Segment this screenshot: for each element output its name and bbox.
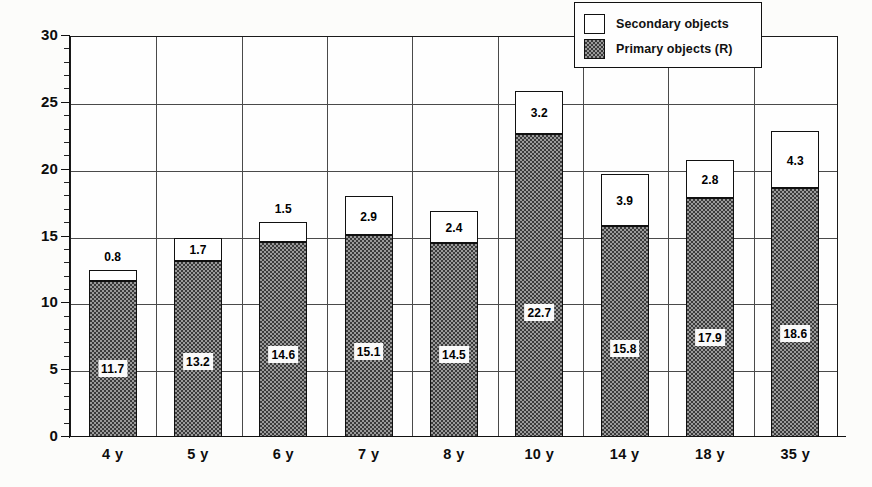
y-axis-minor-tick [64, 329, 69, 330]
y-axis-major-tick [61, 302, 70, 303]
bar-value-label-secondary: 3.9 [613, 191, 636, 208]
bar-group[interactable]: 14.61.5 [259, 222, 307, 437]
y-axis-minor-tick [64, 262, 69, 263]
bar-group[interactable]: 17.92.8 [686, 160, 734, 437]
y-axis-minor-tick [64, 222, 69, 223]
bar-value-label-primary: 22.7 [524, 304, 554, 321]
bar-segment-primary[interactable]: 15.8 [601, 226, 649, 437]
x-axis-tick-label: 5 y [155, 446, 240, 462]
y-axis-major-tick [61, 236, 70, 237]
bar-value-label-secondary: 2.9 [357, 207, 380, 224]
bar-value-label-primary: 18.6 [780, 325, 810, 342]
bar-segment-primary[interactable]: 18.6 [771, 188, 819, 437]
legend-item[interactable]: Secondary objects [584, 14, 752, 34]
bar-value-label-primary: 17.9 [695, 329, 725, 346]
y-axis-tick-label: 30 [6, 26, 58, 43]
chart-legend: Secondary objectsPrimary objects (R) [574, 2, 762, 68]
x-axis-tick-label: 10 y [497, 446, 582, 462]
bar-segment-secondary[interactable]: 2.9 [345, 196, 393, 235]
bar-value-label-secondary: 3.2 [528, 104, 551, 121]
y-axis-minor-tick [64, 182, 69, 183]
bar-segment-primary[interactable]: 14.6 [259, 242, 307, 437]
bar-segment-primary[interactable]: 13.2 [174, 261, 222, 437]
x-axis-tick-label: 35 y [753, 446, 838, 462]
y-axis-major-tick [61, 169, 70, 170]
bar-segment-primary[interactable]: 14.5 [430, 243, 478, 437]
x-axis-tick-label: 4 y [70, 446, 155, 462]
y-axis-minor-tick [64, 115, 69, 116]
y-axis-minor-tick [64, 423, 69, 424]
y-axis-minor-tick [64, 62, 69, 63]
bar-segment-secondary[interactable]: 3.2 [515, 91, 563, 134]
bar-segment-secondary[interactable]: 2.8 [686, 160, 734, 197]
bar-segment-primary[interactable]: 17.9 [686, 198, 734, 437]
x-axis-tick-label: 7 y [326, 446, 411, 462]
bar-value-label-secondary: 2.4 [443, 219, 466, 236]
bar-group[interactable]: 15.83.9 [601, 174, 649, 437]
y-axis-minor-tick [64, 209, 69, 210]
bar-group[interactable]: 22.73.2 [515, 91, 563, 437]
y-axis-tick-label: 10 [6, 293, 58, 310]
bar-value-label-secondary: 1.5 [272, 200, 295, 217]
bar-segment-primary[interactable]: 22.7 [515, 134, 563, 437]
legend-swatch-primary-icon [584, 39, 605, 59]
bar-segment-secondary[interactable] [89, 270, 137, 281]
y-axis-tick-label: 20 [6, 160, 58, 177]
bar-value-label-primary: 11.7 [98, 360, 127, 377]
y-axis: 051015202530 [0, 0, 58, 487]
legend-item-label: Primary objects (R) [616, 42, 733, 56]
y-axis-minor-tick [64, 356, 69, 357]
bar-segment-primary[interactable]: 11.7 [89, 281, 137, 437]
x-axis-tick-label: 18 y [667, 446, 752, 462]
x-axis-tick-label: 6 y [241, 446, 326, 462]
bar-value-label-primary: 15.8 [610, 340, 640, 357]
bar-segment-secondary[interactable]: 4.3 [771, 131, 819, 188]
legend-item[interactable]: Primary objects (R) [584, 39, 752, 59]
y-axis-minor-tick [64, 396, 69, 397]
y-axis-minor-tick [64, 155, 69, 156]
legend-item-label: Secondary objects [616, 17, 729, 31]
bar-value-label-secondary: 4.3 [784, 151, 807, 168]
bar-value-label-secondary: 1.7 [187, 241, 210, 258]
bar-group[interactable]: 11.70.8 [89, 270, 137, 437]
bar-value-label-primary: 14.5 [439, 346, 469, 363]
bar-value-label-primary: 14.6 [268, 346, 298, 363]
bar-group[interactable]: 15.12.9 [345, 196, 393, 437]
bar-value-label-secondary: 2.8 [699, 171, 722, 188]
y-axis-tick-label: 0 [6, 427, 58, 444]
bar-segment-secondary[interactable] [259, 222, 307, 242]
y-axis-minor-tick [64, 142, 69, 143]
chart-page: 051015202530 11.70.813.21.714.61.515.12.… [0, 0, 872, 487]
bar-value-label-primary: 15.1 [354, 343, 384, 360]
bar-segment-secondary[interactable]: 3.9 [601, 174, 649, 226]
bar-group[interactable]: 13.21.7 [174, 238, 222, 437]
bar-segment-secondary[interactable]: 2.4 [430, 211, 478, 243]
bars-layer: 11.70.813.21.714.61.515.12.914.52.422.73… [70, 36, 838, 437]
y-axis-minor-tick [64, 289, 69, 290]
x-axis-line [62, 436, 846, 437]
x-axis-tick-label: 8 y [411, 446, 496, 462]
y-axis-tick-label: 25 [6, 93, 58, 110]
y-axis-major-tick [61, 369, 70, 370]
y-axis-minor-tick [64, 195, 69, 196]
x-axis-tick-label: 14 y [582, 446, 667, 462]
bar-value-label-secondary: 0.8 [101, 248, 124, 265]
bar-segment-secondary[interactable]: 1.7 [174, 238, 222, 261]
y-axis-minor-tick [64, 75, 69, 76]
y-axis-minor-tick [64, 129, 69, 130]
y-axis-tick-label: 5 [6, 360, 58, 377]
bar-segment-primary[interactable]: 15.1 [345, 235, 393, 437]
y-axis-minor-tick [64, 409, 69, 410]
y-axis-minor-tick [64, 342, 69, 343]
y-axis-minor-tick [64, 383, 69, 384]
y-axis-major-tick [61, 35, 70, 36]
y-axis-major-tick [61, 436, 70, 437]
y-axis-major-tick [61, 102, 70, 103]
y-axis-tick-label: 15 [6, 227, 58, 244]
y-axis-minor-tick [64, 48, 69, 49]
bar-value-label-primary: 13.2 [183, 353, 213, 370]
y-axis-minor-tick [64, 316, 69, 317]
bar-group[interactable]: 14.52.4 [430, 211, 478, 437]
y-axis-minor-tick [64, 88, 69, 89]
bar-group[interactable]: 18.64.3 [771, 131, 819, 437]
